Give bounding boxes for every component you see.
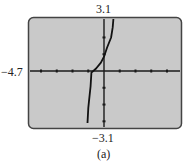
x-tick <box>119 70 121 73</box>
y-tick <box>103 36 106 38</box>
x-tick <box>134 70 136 73</box>
x-tick <box>87 70 89 73</box>
x-tick <box>40 70 42 73</box>
ymin-label: −3.1 <box>92 132 114 144</box>
screen-frame <box>29 18 182 129</box>
xmin-label: −4.7 <box>1 66 23 78</box>
x-tick <box>56 70 58 73</box>
ymax-label: 3.1 <box>96 3 111 15</box>
y-tick <box>103 87 106 89</box>
x-tick <box>72 70 74 73</box>
x-tick <box>166 70 168 73</box>
x-tick <box>150 70 152 73</box>
y-tick <box>103 104 106 106</box>
y-tick <box>103 120 106 122</box>
figure-caption: (a) <box>97 148 110 160</box>
